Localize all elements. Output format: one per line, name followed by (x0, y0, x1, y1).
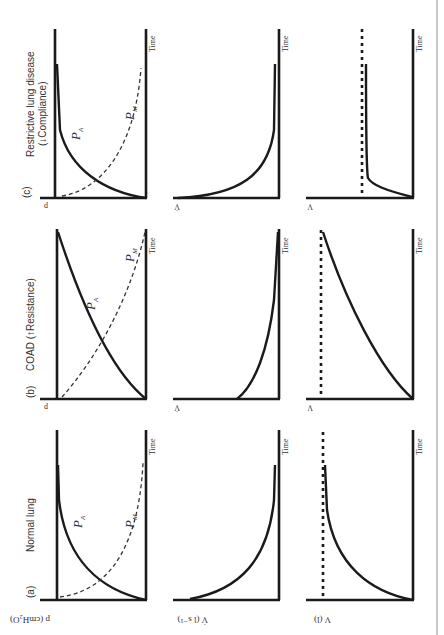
plot-c-pressure: PA PM p Time (40, 29, 157, 211)
pa-label: PA (68, 127, 85, 141)
figure: (a) Normal lung PA PM p (cmH₂O) Time V̇ … (0, 0, 444, 635)
panel-b-title: COAD (↑Resistance) (25, 278, 36, 371)
page-edge-line (436, 0, 438, 635)
panel-c-subtitle: (↓Compliance) (37, 82, 48, 146)
p-axis-label: p (cmH₂O) (10, 615, 50, 625)
pm-label: PM (122, 513, 139, 529)
volume-axis-label: V (307, 403, 313, 412)
panel-a-title: Normal lung (25, 498, 36, 552)
volume-axis-label: V (307, 202, 313, 211)
volume-axis-label: V (l) (314, 615, 331, 625)
time-label: Time (148, 237, 157, 254)
time-label: Time (148, 438, 157, 455)
panel-c: (c) Restrictive lung disease (↓Complianc… (21, 29, 424, 211)
time-label: Time (415, 237, 424, 254)
flow-axis-label: V̇ (174, 403, 180, 412)
volume-curve (323, 232, 413, 399)
pm-curve (60, 463, 143, 597)
pa-label: PA (70, 515, 87, 529)
pm-label: PM (122, 247, 139, 263)
chart-svg: (a) Normal lung PA PM p (cmH₂O) Time V̇ … (0, 0, 444, 635)
plot-c-flow: V̇ Time (173, 29, 290, 211)
flow-curve (237, 232, 278, 399)
volume-curve (366, 64, 412, 197)
pa-curve (57, 64, 146, 198)
time-label: Time (281, 438, 290, 455)
plot-b-pressure: PA PM p Time (40, 229, 157, 412)
time-label: Time (148, 35, 157, 52)
plot-a-volume: V (l) Time (306, 430, 424, 625)
pm-label: PM (122, 105, 139, 121)
pa-label: PA (83, 297, 100, 311)
panel-a: (a) Normal lung PA PM p (cmH₂O) Time V̇ … (10, 430, 424, 625)
plot-b-flow: V̇ Time (173, 229, 290, 412)
panel-b-letter: (b) (25, 386, 36, 398)
pm-curve (62, 68, 141, 196)
flow-curve (190, 465, 275, 599)
p-axis-label: p (44, 202, 48, 211)
plot-b-volume: V Time (306, 229, 424, 412)
time-label: Time (281, 237, 290, 254)
panel-a-letter: (a) (25, 586, 36, 598)
time-label: Time (415, 35, 424, 52)
flow-curve (178, 64, 275, 198)
p-axis-label: p (44, 403, 48, 412)
flow-axis-label: V̇ (l s⁻¹) (177, 615, 208, 625)
panel-c-letter: (c) (21, 186, 32, 198)
time-label: Time (281, 35, 290, 52)
volume-curve (325, 465, 413, 600)
flow-axis-label: V̇ (174, 202, 180, 211)
plot-c-volume: V Time (306, 29, 424, 211)
plot-a-flow: V̇ (l s⁻¹) Time (173, 430, 290, 625)
pa-curve (58, 465, 146, 600)
time-label: Time (415, 438, 424, 455)
panel-b: (b) COAD (↑Resistance) PA PM p Time V̇ T… (25, 229, 424, 412)
panel-c-title: Restrictive lung disease (25, 51, 36, 157)
